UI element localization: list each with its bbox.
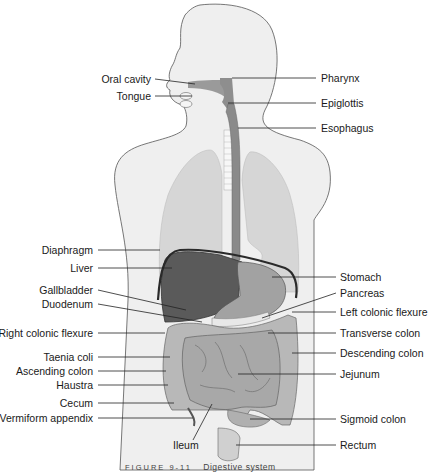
small-intestine-shape: [182, 330, 280, 410]
label-transverse-colon: Transverse colon: [340, 327, 420, 339]
label-stomach: Stomach: [340, 271, 381, 283]
label-ileum: Ileum: [173, 439, 199, 451]
label-diaphragm: Diaphragm: [42, 244, 93, 256]
label-right-colonic-flexure: Right colonic flexure: [0, 327, 93, 339]
rectum-shape: [218, 428, 240, 461]
figure-caption-text: Digestive system: [203, 462, 275, 472]
label-left-colonic-flexure: Left colonic flexure: [340, 306, 428, 318]
label-pancreas: Pancreas: [340, 287, 384, 299]
label-duodenum: Duodenum: [42, 298, 93, 310]
figure-number: FIGURE 9-11: [125, 463, 192, 472]
label-rectum: Rectum: [340, 439, 376, 451]
label-esophagus: Esophagus: [321, 122, 374, 134]
figure-caption: FIGURE 9-11 Digestive system: [125, 462, 276, 472]
label-oral-cavity: Oral cavity: [101, 73, 151, 85]
label-epiglottis: Epiglottis: [321, 97, 364, 109]
label-descending-colon: Descending colon: [340, 347, 423, 359]
label-vermiform-appendix: Vermiform appendix: [0, 412, 93, 424]
digestive-system-diagram: Oral cavity Tongue Diaphragm Liver Gallb…: [0, 0, 434, 475]
label-jejunum: Jejunum: [340, 368, 380, 380]
label-taenia-coli: Taenia coli: [43, 351, 93, 363]
label-ascending-colon: Ascending colon: [16, 365, 93, 377]
label-liver: Liver: [70, 262, 93, 274]
label-pharynx: Pharynx: [321, 72, 360, 84]
label-tongue: Tongue: [117, 90, 151, 102]
label-gallbladder: Gallbladder: [39, 284, 93, 296]
label-sigmoid-colon: Sigmoid colon: [340, 413, 406, 425]
label-cecum: Cecum: [60, 397, 93, 409]
label-haustra: Haustra: [56, 379, 93, 391]
